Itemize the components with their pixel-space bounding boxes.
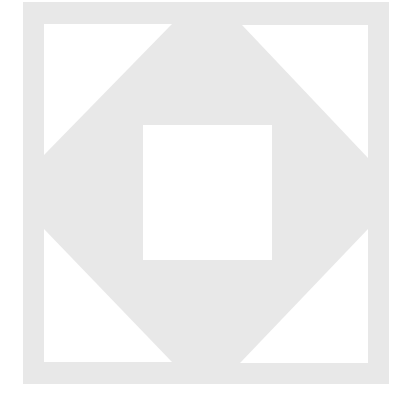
quilt-block-graphic	[0, 0, 410, 400]
center-square	[143, 125, 272, 260]
